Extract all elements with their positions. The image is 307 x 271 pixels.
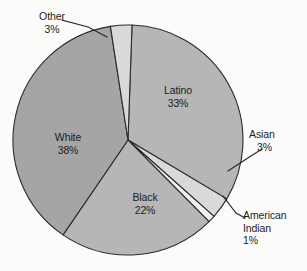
slice-label-white: White 38%	[40, 131, 96, 156]
slice-label-other-name: Other	[24, 10, 80, 23]
slice-label-latino-name: Latino	[150, 84, 206, 97]
slice-label-latino: Latino 33%	[150, 84, 206, 109]
slice-label-latino-value: 33%	[150, 97, 206, 110]
slice-label-white-name: White	[40, 131, 96, 144]
slice-label-black-value: 22%	[117, 204, 173, 217]
slice-label-white-value: 38%	[40, 144, 96, 157]
slice-label-black-name: Black	[117, 191, 173, 204]
slice-label-american-indian-value: 1%	[243, 234, 305, 247]
slice-label-american-indian: American Indian 1%	[243, 209, 305, 247]
slice-label-american-indian-name: American	[243, 209, 305, 222]
slice-label-american-indian-name2: Indian	[243, 222, 305, 235]
pie-chart: Other 3% Latino 33% White 38% Black 22% …	[0, 0, 307, 271]
slice-label-asian: Asian 3%	[249, 128, 299, 153]
slice-label-asian-name: Asian	[249, 128, 299, 141]
slice-label-black: Black 22%	[117, 191, 173, 216]
slice-label-other-value: 3%	[24, 23, 80, 36]
slice-label-other: Other 3%	[24, 10, 80, 35]
slice-label-asian-value: 3%	[249, 141, 299, 154]
